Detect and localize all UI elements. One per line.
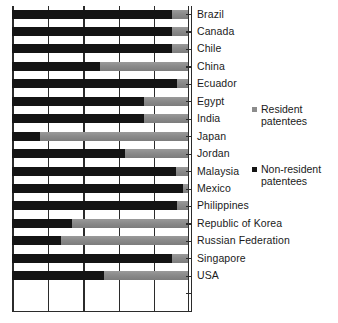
bar-row bbox=[12, 236, 188, 245]
bar-row bbox=[12, 114, 188, 123]
category-label: Canada bbox=[197, 26, 234, 37]
patentees-stacked-bar-chart: BrazilCanadaChileChinaEcuadorEgyptIndiaJ… bbox=[0, 0, 338, 323]
bar-row bbox=[12, 167, 188, 176]
category-label: China bbox=[197, 61, 225, 72]
bar-segment-nonresident bbox=[12, 10, 172, 19]
category-label: Ecuador bbox=[197, 78, 237, 89]
bar-segment-resident bbox=[61, 236, 188, 245]
bar-segment-nonresident bbox=[12, 27, 172, 36]
axis-tick bbox=[186, 311, 192, 312]
category-label: USA bbox=[197, 270, 219, 281]
category-label: Republic of Korea bbox=[197, 218, 282, 229]
axis-tick bbox=[186, 66, 192, 67]
axis-tick bbox=[186, 223, 192, 224]
axis-tick bbox=[186, 101, 192, 102]
legend-item-resident[interactable]: Resident patentees bbox=[252, 104, 307, 127]
bar-segment-nonresident bbox=[12, 167, 176, 176]
bar-segment-resident bbox=[72, 219, 188, 228]
bar-segment-nonresident bbox=[12, 132, 40, 141]
category-label: Brazil bbox=[197, 9, 224, 20]
axis-tick bbox=[186, 154, 192, 155]
bar-row bbox=[12, 184, 188, 193]
axis-tick bbox=[186, 14, 192, 15]
category-label: Egypt bbox=[197, 96, 224, 107]
bar-segment-nonresident bbox=[12, 79, 177, 88]
nonresident-swatch-icon bbox=[252, 167, 257, 172]
category-label: Russian Federation bbox=[197, 235, 290, 246]
category-label: Japan bbox=[197, 131, 226, 142]
bar-segment-resident bbox=[125, 149, 188, 158]
category-label: India bbox=[197, 113, 220, 124]
bar-row bbox=[12, 254, 188, 263]
bar-segment-nonresident bbox=[12, 62, 100, 71]
bar-row bbox=[12, 219, 188, 228]
axis-tick bbox=[186, 49, 192, 50]
bar-segment-nonresident bbox=[12, 219, 72, 228]
bar-segment-nonresident bbox=[12, 184, 183, 193]
category-label: Malaysia bbox=[197, 166, 239, 177]
axis-tick bbox=[186, 276, 192, 277]
bar-row bbox=[12, 271, 188, 280]
bar-segment-nonresident bbox=[12, 254, 172, 263]
bar-row bbox=[12, 10, 188, 19]
bar-segment-resident bbox=[40, 132, 188, 141]
category-label: Philippines bbox=[197, 200, 249, 211]
axis-tick bbox=[186, 206, 192, 207]
axis-tick bbox=[186, 119, 192, 120]
axis-tick bbox=[186, 171, 192, 172]
bar-row bbox=[12, 79, 188, 88]
axis-tick bbox=[186, 136, 192, 137]
bar-row bbox=[12, 97, 188, 106]
bar-segment-nonresident bbox=[12, 201, 177, 210]
axis-tick bbox=[186, 258, 192, 259]
bar-row bbox=[12, 132, 188, 141]
category-label: Chile bbox=[197, 43, 221, 54]
bar-segment-resident bbox=[144, 114, 188, 123]
bar-row bbox=[12, 62, 188, 71]
axis-tick bbox=[186, 189, 192, 190]
bar-row bbox=[12, 201, 188, 210]
bar-segment-nonresident bbox=[12, 97, 144, 106]
bar-segment-nonresident bbox=[12, 44, 172, 53]
legend-label-nonresident: Non-resident patentees bbox=[261, 164, 321, 187]
bar-segment-nonresident bbox=[12, 149, 125, 158]
bar-segment-nonresident bbox=[12, 271, 104, 280]
bar-segment-nonresident bbox=[12, 236, 61, 245]
bar-segment-nonresident bbox=[12, 114, 144, 123]
resident-swatch-icon bbox=[252, 107, 257, 112]
bars-layer bbox=[12, 6, 188, 312]
legend-item-nonresident[interactable]: Non-resident patentees bbox=[252, 164, 321, 187]
category-label: Mexico bbox=[197, 183, 231, 194]
category-labels: BrazilCanadaChileChinaEcuadorEgyptIndiaJ… bbox=[197, 6, 338, 312]
bar-row bbox=[12, 44, 188, 53]
axis-tick bbox=[186, 84, 192, 85]
category-label: Jordan bbox=[197, 148, 230, 159]
right-axis-line bbox=[191, 6, 192, 312]
bar-row bbox=[12, 27, 188, 36]
axis-tick bbox=[186, 31, 192, 32]
axis-tick bbox=[186, 241, 192, 242]
bar-row bbox=[12, 149, 188, 158]
bar-segment-resident bbox=[144, 97, 188, 106]
axis-tick bbox=[186, 293, 192, 294]
bar-segment-resident bbox=[104, 271, 188, 280]
category-label: Singapore bbox=[197, 253, 246, 264]
bar-segment-resident bbox=[100, 62, 188, 71]
legend-label-resident: Resident patentees bbox=[261, 104, 307, 127]
